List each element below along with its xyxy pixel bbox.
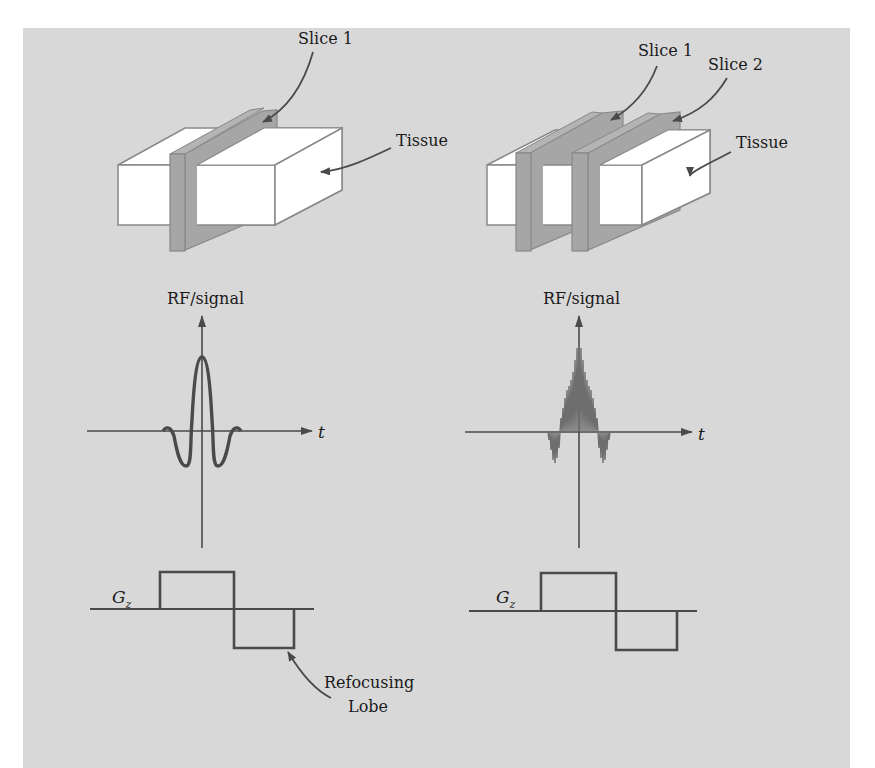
left-gradient-lobes: [160, 572, 294, 648]
left-t-axis-label: t: [318, 422, 325, 442]
left-tissue-label: Tissue: [396, 131, 448, 150]
right-slice2-leader-arrow: [673, 78, 727, 121]
right-rf-axis-label: RF/signal: [543, 289, 620, 308]
left-rf-plot: RF/signal t: [87, 289, 325, 548]
right-slice2-label: Slice 2: [708, 55, 763, 74]
right-rf-plot: RF/signal t: [465, 289, 705, 548]
left-gradient-waveform: Gz Refocusing Lobe: [90, 572, 414, 716]
left-gz-label: Gz: [112, 587, 132, 611]
right-slice1-label: Slice 1: [638, 41, 693, 60]
right-tissue-label: Tissue: [736, 133, 788, 152]
right-gz-label: Gz: [496, 587, 516, 611]
refocusing-label-line1: Refocusing: [324, 673, 414, 692]
left-rf-axis-label: RF/signal: [167, 289, 244, 308]
right-t-axis-label: t: [698, 424, 705, 444]
refocusing-label-line2: Lobe: [348, 697, 388, 716]
left-slice1-label: Slice 1: [298, 29, 353, 48]
right-gradient-waveform: Gz: [469, 573, 697, 650]
